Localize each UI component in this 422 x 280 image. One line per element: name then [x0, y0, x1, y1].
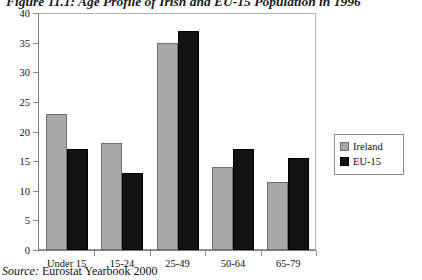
- y-axis-tick: [33, 43, 38, 44]
- source-label: Source:: [2, 264, 39, 278]
- legend-label: Ireland: [353, 141, 383, 152]
- x-axis-line: [38, 250, 316, 251]
- x-axis-label: 25-49: [165, 258, 190, 269]
- y-axis-tick: [33, 72, 38, 73]
- legend-swatch-icon: [340, 157, 349, 166]
- bars-layer: [39, 13, 316, 250]
- x-axis-tick: [94, 251, 95, 256]
- chart-title: Figure 11.1: Age Profile of Irish and EU…: [6, 0, 416, 12]
- y-axis-label: 25: [0, 96, 30, 107]
- bar-eu-15-15-24: [122, 173, 143, 250]
- y-axis-label: 0: [0, 245, 30, 256]
- chart-figure: Figure 11.1: Age Profile of Irish and EU…: [0, 0, 422, 280]
- y-axis-label: 15: [0, 156, 30, 167]
- y-axis-tick: [33, 220, 38, 221]
- legend-swatch-icon: [340, 142, 349, 151]
- y-axis-label: 35: [0, 37, 30, 48]
- x-axis-tick: [205, 251, 206, 256]
- bar-ireland-15-24: [101, 143, 122, 250]
- y-axis-label: 40: [0, 8, 30, 19]
- legend-label: EU-15: [353, 156, 381, 167]
- bar-ireland-65-79: [267, 182, 288, 250]
- source-value: Eurostat Yearbook 2000: [39, 264, 158, 278]
- y-axis-tick: [33, 250, 38, 251]
- x-axis-tick: [316, 251, 317, 256]
- y-axis-label: 10: [0, 185, 30, 196]
- x-axis-label: 50-64: [221, 258, 246, 269]
- x-axis-label: 65-79: [276, 258, 301, 269]
- bar-eu-15-65-79: [288, 158, 309, 250]
- bar-eu-15-25-49: [178, 31, 199, 250]
- legend-item: EU-15: [340, 154, 398, 169]
- legend-item: Ireland: [340, 139, 398, 154]
- y-axis-tick: [33, 132, 38, 133]
- x-axis-tick: [150, 251, 151, 256]
- bar-eu-15-50-64: [233, 149, 254, 250]
- y-axis-label: 20: [0, 126, 30, 137]
- y-axis-tick: [33, 191, 38, 192]
- bar-eu-15-under-15: [67, 149, 88, 250]
- y-axis-tick: [33, 102, 38, 103]
- chart-legend: IrelandEU-15: [334, 134, 404, 175]
- x-axis-tick: [261, 251, 262, 256]
- y-axis-tick: [33, 13, 38, 14]
- bar-ireland-25-49: [157, 43, 178, 250]
- y-axis-label: 5: [0, 215, 30, 226]
- bar-ireland-under-15: [46, 114, 67, 250]
- y-axis-tick: [33, 161, 38, 162]
- y-axis-label: 30: [0, 67, 30, 78]
- bar-ireland-50-64: [212, 167, 233, 250]
- source-note: Source: Eurostat Yearbook 2000: [2, 264, 158, 279]
